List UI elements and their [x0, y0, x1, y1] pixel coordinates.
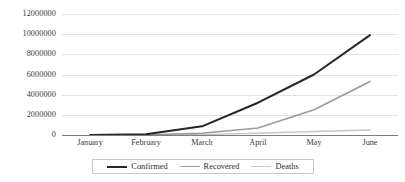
legend-entry-deaths[interactable]: Deaths: [245, 162, 304, 171]
plot-area: [62, 14, 398, 135]
y-axis-tick-label: 12000000: [0, 10, 56, 18]
x-axis-tick-label: February: [118, 137, 174, 151]
legend-label: Confirmed: [131, 162, 167, 171]
y-axis-tick-label: 0: [0, 131, 56, 139]
legend-label: Deaths: [275, 162, 298, 171]
series-line-confirmed: [90, 35, 370, 135]
legend-label: Recovered: [204, 162, 240, 171]
legend-entry-confirmed[interactable]: Confirmed: [101, 162, 173, 171]
x-axis-tick-label: January: [62, 137, 118, 151]
legend-swatch-icon: [107, 166, 127, 168]
legend-swatch-icon: [180, 166, 200, 167]
legend-entry-recovered[interactable]: Recovered: [174, 162, 246, 171]
y-axis-tick-label: 10000000: [0, 30, 56, 38]
series-layer: [62, 14, 398, 135]
line-chart: 1200000010000000800000060000004000000200…: [0, 0, 405, 182]
x-axis: JanuaryFebruaryMarchAprilMayJune: [62, 137, 398, 151]
y-axis: 1200000010000000800000060000004000000200…: [0, 14, 56, 135]
chart-legend: ConfirmedRecoveredDeaths: [92, 159, 314, 174]
series-line-recovered: [90, 82, 370, 135]
x-axis-tick-label: March: [174, 137, 230, 151]
x-axis-tick-label: June: [342, 137, 398, 151]
x-axis-line: [62, 135, 398, 136]
x-axis-tick-label: May: [286, 137, 342, 151]
y-axis-tick-label: 2000000: [0, 111, 56, 119]
y-axis-tick-label: 6000000: [0, 70, 56, 78]
y-axis-tick-label: 8000000: [0, 50, 56, 58]
y-axis-tick-label: 4000000: [0, 91, 56, 99]
x-axis-tick-label: April: [230, 137, 286, 151]
legend-swatch-icon: [251, 166, 271, 167]
